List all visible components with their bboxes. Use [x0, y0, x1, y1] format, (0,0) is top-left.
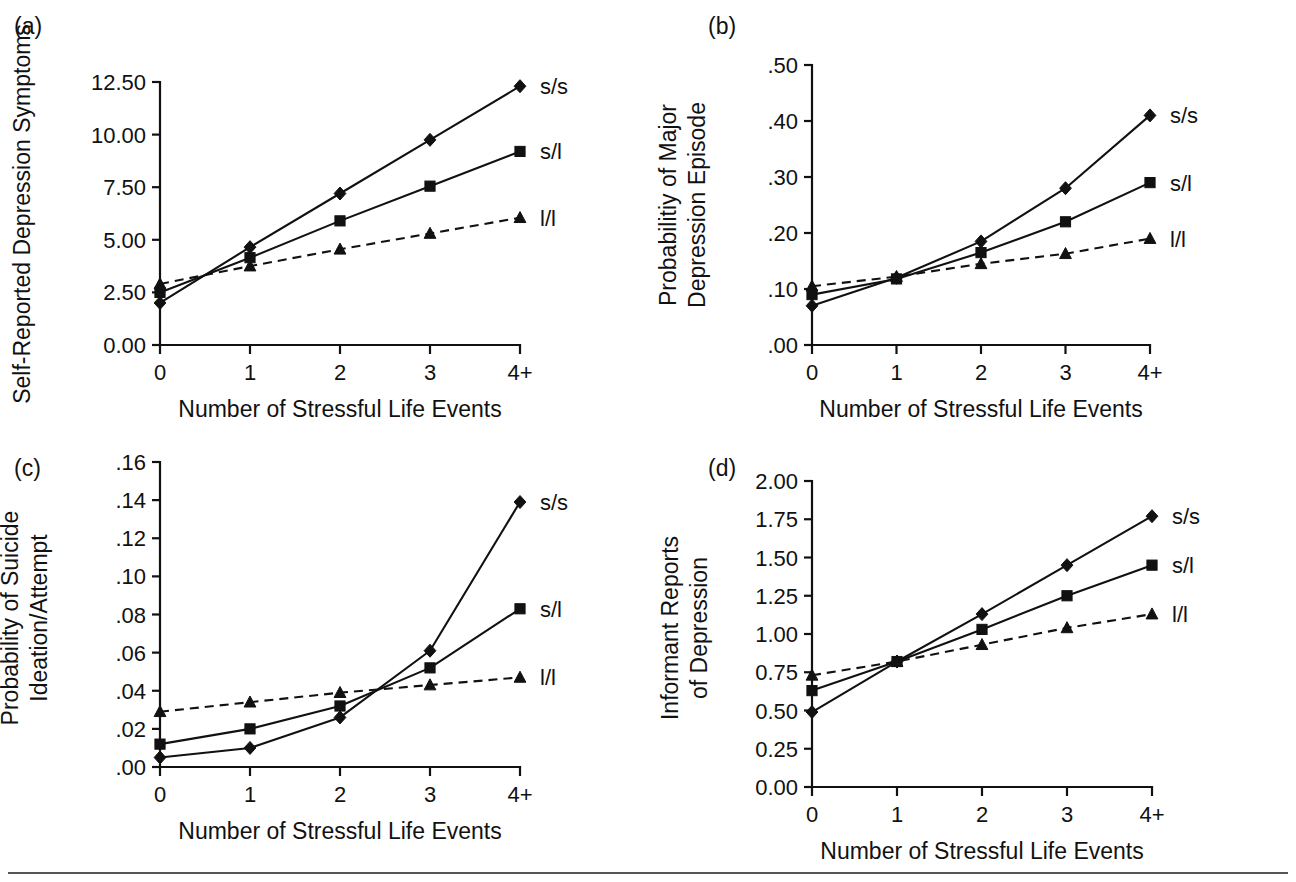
data-point-s-s: [334, 187, 346, 200]
x-tick-label: 4+: [507, 360, 532, 385]
x-axis-title: Number of Stressful Life Events: [178, 818, 501, 844]
data-point-s-s: [514, 496, 526, 509]
y-axis-title: Informant Reportsof Depression: [657, 536, 712, 720]
y-tick-label: .40: [767, 109, 798, 134]
y-tick-label: .02: [115, 717, 146, 742]
data-point-s-s: [1061, 559, 1073, 572]
data-point-s-l: [425, 181, 435, 191]
figure-bottom-rule: [8, 872, 1288, 874]
x-tick-label: 1: [244, 782, 256, 807]
data-point-s-l: [1062, 591, 1072, 601]
series-label-l-l: l/l: [1172, 602, 1188, 627]
data-point-s-s: [806, 706, 818, 719]
series-label-s-l: s/l: [540, 139, 562, 164]
x-axis-title: Number of Stressful Life Events: [819, 396, 1142, 422]
panel-c-chart: (c).00.02.04.06.08.10.12.14.1601234+Numb…: [0, 438, 650, 874]
data-point-s-l: [425, 663, 435, 673]
y-tick-label: 0.75: [755, 660, 798, 685]
y-tick-label: .04: [115, 679, 146, 704]
y-axis-title-line: Probabilitiy of Major: [655, 104, 681, 306]
series-label-l-l: l/l: [540, 665, 556, 690]
x-tick-label: 3: [424, 782, 436, 807]
y-axis-title: Probabilitiy of MajorDepression Episode: [655, 102, 710, 308]
x-tick-label: 2: [334, 782, 346, 807]
series-label-s-s: s/s: [1172, 504, 1200, 529]
y-tick-label: 2.50: [103, 280, 146, 305]
x-tick-label: 1: [244, 360, 256, 385]
y-tick-label: 10.00: [91, 123, 146, 148]
data-point-s-s: [154, 296, 166, 309]
y-axis-title-line: of Depression: [686, 557, 712, 699]
y-tick-label: 0.25: [755, 737, 798, 762]
x-tick-label: 2: [334, 360, 346, 385]
x-axis-title: Number of Stressful Life Events: [178, 396, 501, 422]
y-tick-label: 1.00: [755, 622, 798, 647]
x-tick-label: 1: [890, 360, 902, 385]
data-point-s-l: [977, 624, 987, 634]
series-line-s-s: [812, 115, 1150, 305]
data-point-s-l: [807, 686, 817, 696]
y-tick-label: .16: [115, 450, 146, 475]
series-label-s-s: s/s: [540, 490, 568, 515]
x-tick-label: 3: [1061, 802, 1073, 827]
data-point-s-s: [976, 608, 988, 621]
series-label-s-s: s/s: [1170, 103, 1198, 128]
y-tick-label: 0.00: [103, 333, 146, 358]
y-tick-label: 1.75: [755, 507, 798, 532]
data-point-s-l: [976, 248, 986, 258]
x-tick-label: 0: [154, 782, 166, 807]
y-tick-label: .00: [767, 333, 798, 358]
y-tick-label: 12.50: [91, 70, 146, 95]
y-tick-label: 0.00: [755, 775, 798, 800]
panel-b: (b).00.10.20.30.40.5001234+Number of Str…: [650, 0, 1296, 438]
data-point-s-s: [334, 711, 346, 724]
x-tick-label: 2: [976, 802, 988, 827]
data-point-s-l: [335, 216, 345, 226]
data-point-s-l: [335, 701, 345, 711]
x-tick-label: 4+: [1139, 802, 1164, 827]
y-tick-label: 0.50: [755, 699, 798, 724]
data-point-l-l: [1144, 232, 1156, 243]
x-tick-label: 4+: [507, 782, 532, 807]
x-tick-label: 0: [154, 360, 166, 385]
series-label-s-l: s/l: [1172, 553, 1194, 578]
data-point-l-l: [975, 258, 987, 269]
x-tick-label: 3: [424, 360, 436, 385]
data-point-s-l: [515, 146, 525, 156]
y-tick-label: .08: [115, 603, 146, 628]
y-axis-title-line: Self-Reported Depression Symptoms: [9, 24, 35, 404]
x-tick-label: 0: [806, 360, 818, 385]
panel-d: (d)0.000.250.500.751.001.251.501.752.000…: [650, 438, 1296, 874]
data-point-l-l: [514, 671, 526, 682]
panel-a: (a)0.002.505.007.5010.0012.5001234+Numbe…: [0, 0, 650, 438]
panel-letter: (d): [708, 455, 736, 481]
panel-b-chart: (b).00.10.20.30.40.5001234+Number of Str…: [650, 0, 1296, 438]
y-tick-label: .10: [115, 564, 146, 589]
y-axis-title-line: Probability of Suicide: [0, 511, 23, 726]
y-tick-label: .06: [115, 641, 146, 666]
y-tick-label: 7.50: [103, 175, 146, 200]
panel-d-chart: (d)0.000.250.500.751.001.251.501.752.000…: [650, 438, 1296, 874]
series-label-l-l: l/l: [540, 206, 556, 231]
panel-letter: (c): [14, 455, 41, 481]
series-label-s-s: s/s: [540, 74, 568, 99]
y-tick-label: 1.50: [755, 546, 798, 571]
y-axis-title: Self-Reported Depression Symptoms: [9, 24, 35, 404]
x-axis-title: Number of Stressful Life Events: [820, 838, 1143, 864]
data-point-s-l: [245, 724, 255, 734]
data-point-s-s: [514, 80, 526, 93]
y-tick-label: .12: [115, 526, 146, 551]
panel-c: (c).00.02.04.06.08.10.12.14.1601234+Numb…: [0, 438, 650, 874]
series-label-l-l: l/l: [1170, 227, 1186, 252]
data-point-s-l: [1145, 178, 1155, 188]
y-axis-title-line: Informant Reports: [657, 536, 683, 720]
y-tick-label: .20: [767, 221, 798, 246]
data-point-s-s: [424, 133, 436, 146]
data-point-s-s: [244, 741, 256, 754]
y-tick-label: .50: [767, 53, 798, 78]
panel-a-chart: (a)0.002.505.007.5010.0012.5001234+Numbe…: [0, 0, 650, 438]
y-tick-label: .10: [767, 277, 798, 302]
y-tick-label: 1.25: [755, 584, 798, 609]
y-tick-label: 5.00: [103, 228, 146, 253]
y-axis-title: Probability of SuicideIdeation/Attempt: [0, 511, 52, 726]
